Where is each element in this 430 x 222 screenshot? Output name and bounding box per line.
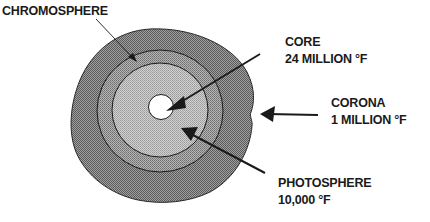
chromosphere-name: CHROMOSPHERE <box>2 3 108 20</box>
core-name: CORE <box>285 34 367 51</box>
chromosphere-label: CHROMOSPHERE <box>2 3 108 20</box>
corona-label: CORONA 1 MILLION °F <box>331 95 407 129</box>
photosphere-name: PHOTOSPHERE <box>278 175 371 192</box>
photosphere-temperature: 10,000 °F <box>278 192 371 209</box>
corona-name: CORONA <box>331 95 407 112</box>
core-region <box>149 95 174 120</box>
corona-temperature: 1 MILLION °F <box>331 112 407 129</box>
core-label: CORE 24 MILLION °F <box>285 34 367 68</box>
core-temperature: 24 MILLION °F <box>285 51 367 68</box>
corona-arrow-icon <box>260 106 318 122</box>
photosphere-label: PHOTOSPHERE 10,000 °F <box>278 175 371 209</box>
